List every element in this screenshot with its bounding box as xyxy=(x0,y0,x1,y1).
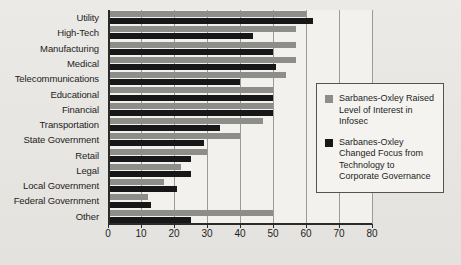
x-axis-tick xyxy=(141,224,142,228)
x-axis-tick xyxy=(240,224,241,228)
bar xyxy=(108,210,273,216)
x-axis-tick-label: 0 xyxy=(105,228,111,239)
bar xyxy=(108,217,191,223)
y-axis-label: Retail xyxy=(0,149,104,162)
bar xyxy=(108,133,240,139)
bar xyxy=(108,194,148,200)
bar-group xyxy=(108,26,372,39)
legend-swatch-black xyxy=(325,139,333,147)
y-axis-label: Educational xyxy=(0,87,104,100)
bar xyxy=(108,42,296,48)
bar xyxy=(108,72,286,78)
bar-group xyxy=(108,42,372,55)
bar xyxy=(108,110,273,116)
bar xyxy=(108,64,276,70)
y-axis-label: State Government xyxy=(0,133,104,146)
bar xyxy=(108,26,296,32)
y-axis-category-labels: UtilityHigh-TechManufacturingMedicalTele… xyxy=(0,10,104,225)
x-axis-tick-label: 40 xyxy=(234,228,245,239)
bar xyxy=(108,87,273,93)
y-axis-label: Manufacturing xyxy=(0,42,104,55)
bar xyxy=(108,57,296,63)
bar-group xyxy=(108,57,372,70)
x-axis-tick-label: 20 xyxy=(168,228,179,239)
legend-swatch-gray xyxy=(325,95,333,103)
x-axis-tick xyxy=(207,224,208,228)
bar xyxy=(108,125,220,131)
y-axis-label: Legal xyxy=(0,164,104,177)
x-axis-tick-label: 60 xyxy=(300,228,311,239)
legend-label: Sarbanes-Oxley Changed Focus from Techno… xyxy=(339,137,435,183)
bar xyxy=(108,95,273,101)
bar xyxy=(108,49,273,55)
x-axis-tick xyxy=(174,224,175,228)
bar xyxy=(108,11,306,17)
bar xyxy=(108,156,191,162)
bar xyxy=(108,79,240,85)
x-axis-tick xyxy=(372,224,373,228)
x-axis-tick-label: 30 xyxy=(201,228,212,239)
y-axis-label: Utility xyxy=(0,11,104,24)
bar-group xyxy=(108,210,372,223)
y-axis-label: Federal Government xyxy=(0,194,104,207)
y-axis-label: Medical xyxy=(0,57,104,70)
bar xyxy=(108,33,253,39)
y-axis-label: High-Tech xyxy=(0,26,104,39)
x-axis-tick-label: 80 xyxy=(366,228,377,239)
chart-legend: Sarbanes-Oxley Raised Level of Interest … xyxy=(316,83,444,193)
legend-label: Sarbanes-Oxley Raised Level of Interest … xyxy=(339,93,435,128)
y-axis-label: Transportation xyxy=(0,118,104,131)
x-axis-tick xyxy=(339,224,340,228)
bar xyxy=(108,18,313,24)
x-axis-tick xyxy=(108,224,109,228)
legend-item: Sarbanes-Oxley Changed Focus from Techno… xyxy=(325,137,435,183)
bar xyxy=(108,179,164,185)
x-axis-tick-label: 50 xyxy=(267,228,278,239)
bar xyxy=(108,202,151,208)
bar xyxy=(108,164,181,170)
y-axis-line xyxy=(108,10,110,225)
bar-chart: UtilityHigh-TechManufacturingMedicalTele… xyxy=(0,0,461,265)
x-axis-tick xyxy=(306,224,307,228)
bar xyxy=(108,103,273,109)
bar-group xyxy=(108,194,372,207)
bar xyxy=(108,186,177,192)
y-axis-label: Financial xyxy=(0,103,104,116)
x-axis-tick-label: 70 xyxy=(333,228,344,239)
y-axis-label: Other xyxy=(0,210,104,223)
x-axis-tick xyxy=(273,224,274,228)
legend-item: Sarbanes-Oxley Raised Level of Interest … xyxy=(325,93,435,128)
bar xyxy=(108,149,207,155)
y-axis-label: Local Government xyxy=(0,179,104,192)
x-axis-tick-label: 10 xyxy=(135,228,146,239)
bar xyxy=(108,140,204,146)
x-axis-tick-labels: 01020304050607080 xyxy=(108,228,372,244)
y-axis-label: Telecommunications xyxy=(0,72,104,85)
bar-group xyxy=(108,11,372,24)
bar xyxy=(108,171,191,177)
bar xyxy=(108,118,263,124)
